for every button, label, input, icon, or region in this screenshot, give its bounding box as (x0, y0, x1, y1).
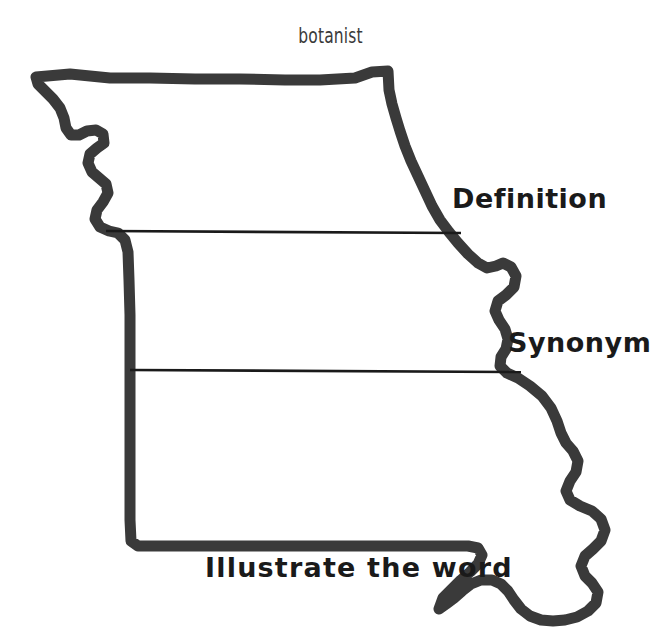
section-label-synonym: Synonym (508, 327, 651, 358)
section-label-illustrate: Illustrate the word (205, 552, 513, 583)
section-label-definition: Definition (452, 183, 607, 214)
vocabulary-worksheet: botanist Definition Synonym Illustrate t… (0, 0, 661, 641)
divider-definition (106, 231, 461, 233)
divider-synonym (130, 370, 521, 372)
missouri-map-outline (0, 0, 661, 641)
